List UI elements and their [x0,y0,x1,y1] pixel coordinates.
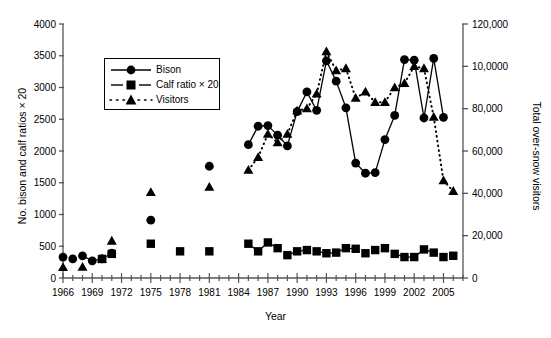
data-point-circle [68,255,77,264]
data-point-square [244,240,252,248]
y-tick-label-right: 80,000 [472,103,503,114]
chart-legend: Bison Calf ratio × 20 Visitors [104,58,220,110]
data-point-square [273,244,281,252]
legend-key-square [109,78,153,92]
data-point-triangle [341,63,351,72]
data-point-circle [283,142,292,151]
data-point-circle [78,251,87,260]
legend-label-visitors: Visitors [156,94,189,105]
y-tick-label-left: 500 [39,241,56,252]
series-segment [346,108,356,163]
x-tick-label: 1978 [169,287,192,298]
y-tick-label-left: 0 [50,273,56,284]
data-point-square [439,253,447,261]
y-tick-label-left: 3000 [34,82,57,93]
data-point-circle [381,135,390,144]
x-tick-label: 1993 [315,287,338,298]
data-point-circle [420,114,429,123]
data-point-square [205,247,213,255]
data-point-square [361,249,369,257]
data-point-circle [390,111,399,120]
x-tick-label: 1972 [110,287,133,298]
series-segment [434,117,444,181]
data-point-triangle [321,46,331,55]
legend-item-calf-ratio: Calf ratio × 20 [105,77,219,92]
data-point-triangle [78,262,88,271]
legend-label-bison: Bison [156,64,181,75]
data-point-square [264,238,272,246]
y-tick-label-left: 1000 [34,209,57,220]
data-point-square [351,245,359,253]
legend-key-triangle [109,93,153,107]
data-point-square [312,247,320,255]
data-point-square [176,247,184,255]
y-tick-label-left: 3500 [34,50,57,61]
data-point-circle [205,162,214,171]
x-tick-label: 2002 [403,287,426,298]
data-point-circle [146,216,155,225]
data-point-circle [332,77,341,86]
series-segment [317,61,327,111]
data-point-square [410,253,418,261]
x-tick-label: 1999 [374,287,397,298]
x-tick-label: 1981 [198,287,221,298]
x-tick-label: 2005 [432,287,455,298]
data-point-square [322,249,330,257]
data-point-triangle [204,182,214,191]
x-tick-label: 1990 [286,287,309,298]
legend-item-bison: Bison [105,62,219,77]
x-tick-label: 1969 [81,287,104,298]
x-tick-label: 1996 [345,287,368,298]
data-point-square [108,250,116,258]
data-point-triangle [360,87,370,96]
data-point-triangle [263,129,273,138]
y-tick-label-right: 40,000 [472,188,503,199]
series-segment [434,58,444,117]
data-point-square [332,248,340,256]
data-point-square [303,246,311,254]
x-tick-label: 1984 [227,287,250,298]
data-point-triangle [390,82,400,91]
data-point-circle [254,122,263,131]
data-point-circle [59,253,68,262]
chart-canvas: 05001000150020002500300035004000020,0004… [0,0,551,338]
y-tick-label-right: 20,000 [472,230,503,241]
data-point-circle [244,140,253,149]
legend-item-visitors: Visitors [105,92,219,107]
data-point-square [342,244,350,252]
figure-root: No. bison and calf ratios × 20 Total ove… [0,0,551,338]
data-point-circle [400,55,409,64]
x-tick-label: 1975 [140,287,163,298]
data-point-circle [429,54,438,63]
legend-key-circle [109,63,153,77]
data-point-triangle [438,176,448,185]
data-point-circle [263,121,272,130]
data-point-triangle [107,236,117,245]
data-point-triangle [331,65,341,74]
data-point-triangle [419,63,429,72]
data-point-square [371,246,379,254]
data-point-square [283,251,291,259]
x-tick-label: 1966 [52,287,75,298]
data-point-triangle [351,93,361,102]
data-point-square [391,250,399,258]
x-tick-label: 1987 [257,287,280,298]
data-point-triangle [253,152,263,161]
series-calf-ratio-20 [98,238,458,263]
data-point-square [381,244,389,252]
data-point-circle [361,169,370,178]
data-point-circle [351,159,360,168]
data-point-square [293,247,301,255]
y-tick-label-right: 10,0000 [472,61,509,72]
data-point-triangle [146,187,156,196]
y-tick-label-left: 2500 [34,114,57,125]
y-tick-label-right: 120,000 [472,19,509,30]
data-point-square [420,245,428,253]
series-segment [346,68,356,98]
legend-label-calf-ratio: Calf ratio × 20 [156,79,219,90]
data-point-circle [303,88,312,97]
y-tick-label-right: 60,000 [472,146,503,157]
y-tick-label-left: 2000 [34,146,57,157]
data-point-square [400,253,408,261]
data-point-square [430,248,438,256]
